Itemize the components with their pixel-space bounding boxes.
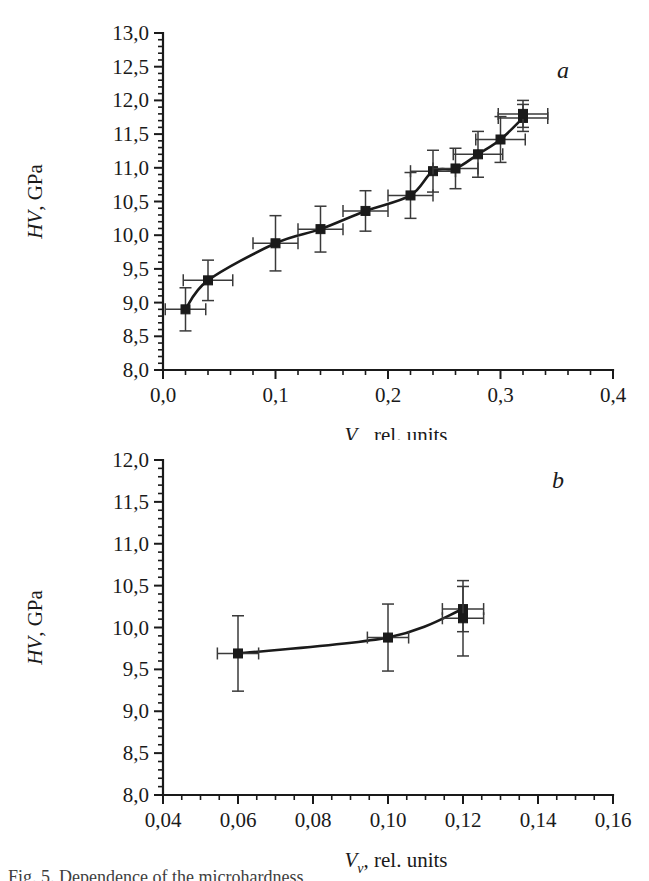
y-axis-title-symbol: HV [23,209,47,240]
x-tick-label: 0,12 [445,808,482,832]
data-marker [234,649,243,658]
y-tick-label: 11,0 [113,156,149,180]
y-tick-label: 9,5 [123,257,149,281]
data-point-group [442,581,483,656]
x-tick-label: 0,04 [145,808,182,832]
fitted-curve [238,609,463,653]
x-tick-label: 0,06 [220,808,257,832]
y-tick-label: 8,0 [123,358,149,382]
y-tick-label: 10,0 [112,616,149,640]
y-axis-title: HV, GPa [23,589,47,665]
data-point-group [217,616,258,691]
axis-spines [163,33,613,370]
data-marker [361,206,370,215]
y-tick-label: 11,0 [113,532,149,556]
x-tick-label: 0,3 [487,383,513,407]
y-tick-label: 8,0 [123,783,149,807]
y-tick-label: 10,5 [112,190,149,214]
y-tick-label: 10,5 [112,574,149,598]
y-axis-title: HV, GPa [23,163,47,239]
y-tick-label: 10,0 [112,223,149,247]
y-tick-label: 13,0 [112,21,149,45]
chart-panel-a: 8,08,59,09,510,010,511,011,512,012,513,0… [0,0,649,440]
data-marker [271,239,280,248]
data-marker [204,276,213,285]
data-point-group [367,604,408,671]
y-axis-title-rest: , GPa [23,589,47,636]
data-marker [459,614,468,623]
x-tick-label: 0,08 [295,808,332,832]
data-point-group [165,288,206,331]
data-marker [384,633,393,642]
fitted-curve [186,118,524,309]
y-axis-title-symbol: HV [23,635,47,666]
data-point-group [453,131,503,177]
y-tick-label: 11,5 [113,122,149,146]
chart-a-svg: 8,08,59,09,510,010,511,011,512,012,513,0… [0,0,649,440]
data-marker [406,191,415,200]
y-tick-label: 8,5 [123,741,149,765]
data-marker [474,150,483,159]
y-tick-label: 11,5 [113,490,149,514]
data-marker [451,164,460,173]
caption-fragment: Fig. 5. Dependence of the microhardness [0,867,649,881]
data-marker [496,135,505,144]
x-tick-label: 0,10 [370,808,407,832]
data-marker [181,305,190,314]
panel-letter: b [552,467,564,493]
data-point-group [498,100,548,127]
data-marker [519,109,528,118]
panel-letter: a [557,57,569,83]
x-tick-label: 0,1 [262,383,288,407]
y-tick-label: 8,5 [123,324,149,348]
y-tick-label: 9,0 [123,291,149,315]
x-tick-label: 0,16 [595,808,632,832]
y-tick-label: 12,0 [112,88,149,112]
data-point-group [343,191,388,231]
y-tick-label: 9,5 [123,657,149,681]
x-tick-label: 0,2 [375,383,401,407]
y-axis-title-rest: , GPa [23,163,47,210]
y-tick-label: 9,0 [123,699,149,723]
data-point-group [298,206,343,252]
y-tick-label: 12,5 [112,55,149,79]
chart-b-svg: 8,08,59,09,510,010,511,011,512,00,040,06… [0,430,649,881]
x-tick-label: 0,0 [150,383,176,407]
data-point-group [253,216,298,271]
data-marker [316,225,325,234]
chart-panel-b: 8,08,59,09,510,010,511,011,512,00,040,06… [0,430,649,881]
y-tick-label: 12,0 [112,448,149,472]
data-point-group [183,260,233,300]
x-tick-label: 0,14 [520,808,557,832]
x-tick-label: 0,4 [600,383,627,407]
figure-container: 8,08,59,09,510,010,511,011,512,012,513,0… [0,0,649,881]
